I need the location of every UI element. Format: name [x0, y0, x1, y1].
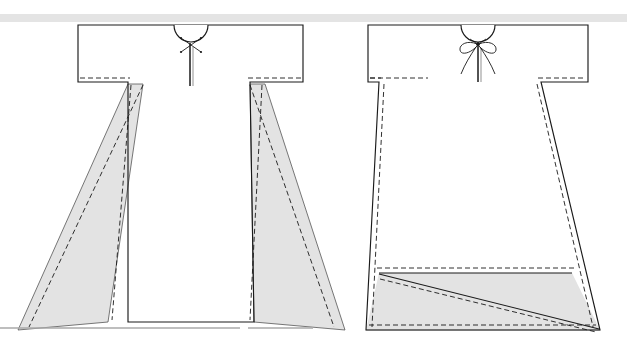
left-view-group: [0, 25, 345, 330]
left-view-neck-opening: [174, 25, 208, 42]
left-view-gore-panel-right: [250, 84, 345, 330]
right-view-group: [366, 25, 600, 332]
illustration-svg: [0, 0, 627, 346]
top-divider-band: [0, 14, 627, 22]
garment-illustration-figure: [0, 0, 627, 346]
left-view-gore-panel-left: [18, 84, 143, 330]
right-view-hem-band-panel: [366, 273, 600, 330]
right-view-neck-opening: [461, 25, 495, 42]
